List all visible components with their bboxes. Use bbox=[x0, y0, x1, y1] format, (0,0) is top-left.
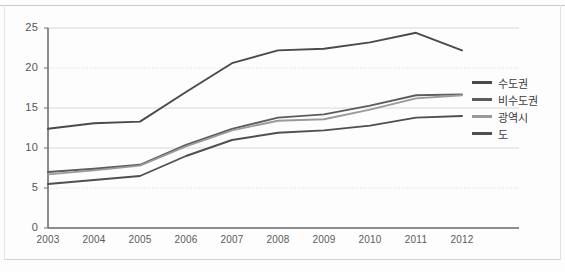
y-tick-label-10: 10 bbox=[12, 141, 38, 153]
legend-item-3[interactable]: 도 bbox=[472, 125, 538, 142]
x-tick-label-2008: 2008 bbox=[256, 234, 300, 245]
x-tick-label-2003: 2003 bbox=[26, 234, 70, 245]
x-tick-label-2009: 2009 bbox=[302, 234, 346, 245]
y-tick-label-0: 0 bbox=[12, 221, 38, 233]
legend-item-label: 도 bbox=[498, 126, 508, 142]
gridlines bbox=[48, 28, 519, 228]
y-tick-label-20: 20 bbox=[12, 61, 38, 73]
legend-line-swatch-icon bbox=[472, 115, 492, 118]
series-line-2 bbox=[48, 95, 462, 174]
y-tick-label-15: 15 bbox=[12, 101, 38, 113]
legend-line-swatch-icon bbox=[472, 81, 492, 84]
x-tick-label-2011: 2011 bbox=[394, 234, 438, 245]
series-line-1 bbox=[48, 94, 462, 172]
y-tick-label-5: 5 bbox=[12, 181, 38, 193]
axis-lines bbox=[44, 28, 519, 228]
y-tick-label-25: 25 bbox=[12, 21, 38, 33]
legend-item-label: 광역시 bbox=[498, 109, 528, 125]
x-tick-label-2006: 2006 bbox=[164, 234, 208, 245]
x-tick-label-2007: 2007 bbox=[210, 234, 254, 245]
x-tick-label-2004: 2004 bbox=[72, 234, 116, 245]
x-tick-label-2010: 2010 bbox=[348, 234, 392, 245]
legend-item-2[interactable]: 광역시 bbox=[472, 108, 538, 125]
legend-line-swatch-icon bbox=[472, 132, 492, 135]
legend-item-1[interactable]: 비수도권 bbox=[472, 91, 538, 108]
x-tick-label-2005: 2005 bbox=[118, 234, 162, 245]
line-chart: 2520151050 20032004200520062007200820092… bbox=[0, 0, 565, 272]
legend-item-label: 수도권 bbox=[498, 75, 528, 91]
legend-item-0[interactable]: 수도권 bbox=[472, 74, 538, 91]
legend-line-swatch-icon bbox=[472, 98, 492, 101]
x-tick-label-2012: 2012 bbox=[440, 234, 484, 245]
series-line-0 bbox=[48, 33, 462, 129]
chart-legend: 수도권비수도권광역시도 bbox=[472, 74, 538, 142]
legend-item-label: 비수도권 bbox=[498, 92, 538, 108]
